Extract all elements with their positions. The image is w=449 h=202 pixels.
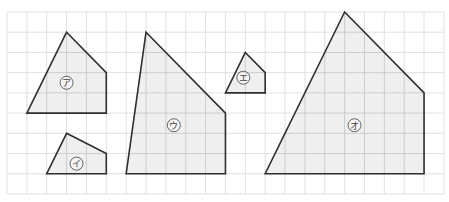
shape-label-text: エ [239, 73, 248, 83]
shape-label-i: イ [70, 157, 83, 170]
shape-label-a: ア [60, 76, 73, 89]
shape-fill [126, 32, 225, 174]
shape-label-o: オ [348, 119, 361, 132]
shape-label-e: エ [237, 71, 250, 84]
shape-label-text: ア [62, 78, 71, 88]
shape-label-text: オ [350, 121, 359, 131]
shape-label-text: イ [72, 159, 81, 169]
shape-label-text: ウ [169, 121, 178, 131]
grid-figure: アイウエオ [0, 0, 449, 202]
shape-label-u: ウ [167, 119, 180, 132]
